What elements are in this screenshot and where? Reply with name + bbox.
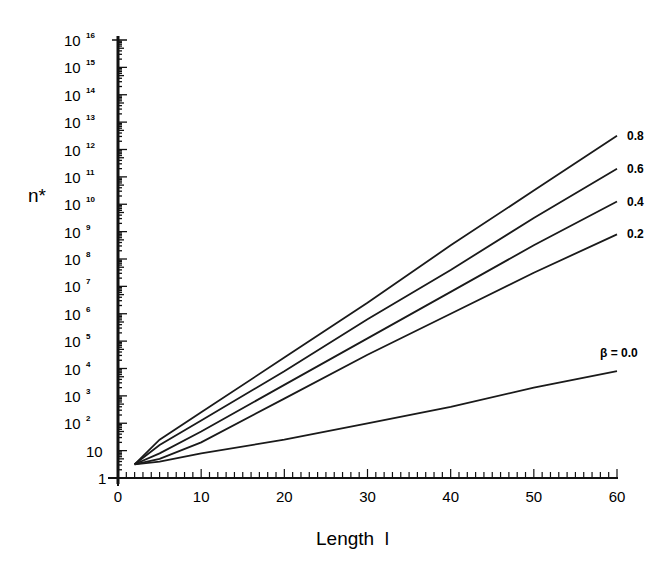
curves: 0.80.60.40.2β = 0.0: [135, 129, 644, 464]
curve-beta-0.6: [135, 169, 617, 465]
y-tick-label: 10: [64, 114, 81, 131]
y-tick-exponent: 8: [86, 250, 91, 259]
y-axis: 1101021031041051061071081091010101110121…: [64, 31, 127, 487]
y-tick-exponent: 6: [86, 305, 91, 314]
curve-label: β = 0.0: [600, 346, 638, 360]
x-tick-label: 0: [114, 488, 122, 505]
y-tick-exponent: 11: [86, 168, 95, 177]
y-tick-label: 10: [64, 142, 81, 159]
x-axis-title: Length l: [316, 528, 389, 549]
x-tick-label: 40: [442, 488, 459, 505]
curve-beta-0.4: [135, 202, 617, 465]
y-tick-label: 10: [64, 32, 81, 49]
y-tick-exponent: 3: [86, 387, 91, 396]
y-tick-exponent: 2: [86, 414, 91, 423]
x-tick-label: 20: [276, 488, 293, 505]
y-axis-title: n*: [28, 185, 47, 206]
y-tick-exponent: 16: [86, 31, 95, 40]
x-axis: 0102030405060: [108, 469, 625, 505]
y-tick-label: 10: [64, 59, 81, 76]
y-tick-label: 10: [64, 361, 81, 378]
y-tick-label: 10: [64, 388, 81, 405]
y-tick-label: 10: [64, 87, 81, 104]
curve-beta-0.2: [135, 234, 617, 464]
y-tick-label: 10: [86, 443, 103, 460]
curve-label: 0.6: [627, 162, 644, 176]
y-tick-exponent: 13: [86, 113, 95, 122]
y-tick-label: 10: [64, 278, 81, 295]
curve-label: 0.8: [627, 129, 644, 143]
y-tick-exponent: 10: [86, 195, 95, 204]
curve-label: 0.2: [627, 227, 644, 241]
y-tick-exponent: 15: [86, 58, 95, 67]
y-tick-exponent: 5: [86, 332, 91, 341]
chart: 1101021031041051061071081091010101110121…: [0, 0, 668, 572]
x-tick-label: 50: [525, 488, 542, 505]
y-tick-label: 10: [64, 251, 81, 268]
y-tick-exponent: 14: [86, 86, 95, 95]
y-tick-label: 10: [64, 169, 81, 186]
y-tick-label: 10: [64, 415, 81, 432]
x-tick-label: 60: [609, 488, 626, 505]
curve-beta-0.8: [135, 136, 617, 465]
y-tick-exponent: 7: [86, 277, 91, 286]
x-tick-label: 10: [193, 488, 210, 505]
y-tick-label: 10: [64, 196, 81, 213]
curve-label: 0.4: [627, 195, 644, 209]
y-tick-exponent: 4: [86, 360, 91, 369]
y-tick-label: 10: [64, 333, 81, 350]
y-tick-exponent: 12: [86, 141, 95, 150]
y-tick-exponent: 9: [86, 223, 91, 232]
y-tick-label: 1: [98, 470, 106, 487]
y-tick-label: 10: [64, 306, 81, 323]
y-tick-label: 10: [64, 224, 81, 241]
x-tick-label: 30: [359, 488, 376, 505]
